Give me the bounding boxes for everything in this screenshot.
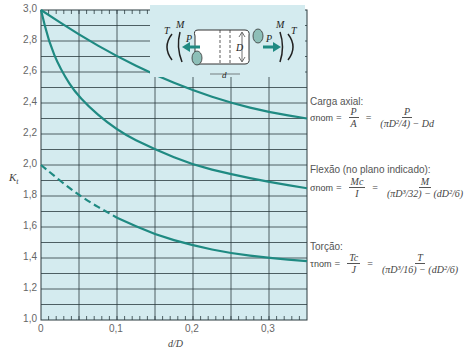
left-section-icon bbox=[192, 51, 202, 65]
y-tick-label: 1,6 bbox=[3, 220, 37, 231]
y-tick-label: 1,2 bbox=[3, 282, 37, 293]
diameter-label: D bbox=[235, 42, 244, 53]
y-tick-label: 2,2 bbox=[3, 127, 37, 138]
force-label-left: P bbox=[185, 33, 192, 44]
y-tick-label: 2,4 bbox=[3, 96, 37, 107]
x-tick-label: 0,3 bbox=[261, 323, 275, 334]
moment-label-left: M bbox=[175, 19, 185, 30]
y-tick-label: 1,8 bbox=[3, 189, 37, 200]
y-axis-label: Kt bbox=[9, 171, 19, 186]
torsion-formula: τnom = TcJ = T(πD³/16) − (dD²/6) bbox=[310, 252, 464, 275]
specimen-diagram: T M P D d P M T bbox=[150, 5, 305, 80]
y-tick-label: 3,0 bbox=[3, 3, 37, 14]
force-label-right: P bbox=[265, 33, 272, 44]
y-tick-label: 1,4 bbox=[3, 251, 37, 262]
torsion-title: Torção: bbox=[310, 241, 343, 252]
x-tick-label: 0,2 bbox=[185, 323, 199, 334]
axial-load-formula: σnom = PA = P(πD²/4) − Dd bbox=[310, 106, 440, 129]
moment-label-right: M bbox=[275, 19, 285, 30]
y-tick-label: 2,0 bbox=[3, 158, 37, 169]
x-tick-label: 0,1 bbox=[109, 323, 123, 334]
x-tick-label: 0 bbox=[38, 323, 44, 334]
y-tick-label: 1,0 bbox=[3, 313, 37, 324]
bending-formula: σnom = McI = M(πD³/32) − (dD²/6) bbox=[310, 176, 468, 199]
hole-diameter-label: d bbox=[222, 70, 227, 80]
right-section-icon bbox=[253, 29, 263, 43]
x-axis-label: d/D bbox=[168, 338, 183, 349]
bending-title: Flexão (no plano indicado): bbox=[310, 164, 431, 175]
y-tick-label: 2,6 bbox=[3, 65, 37, 76]
y-tick-label: 2,8 bbox=[3, 34, 37, 45]
